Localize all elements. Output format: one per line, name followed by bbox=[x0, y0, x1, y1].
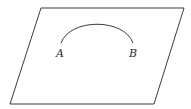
point-label-a: A bbox=[55, 47, 64, 60]
arc-a-to-b bbox=[61, 24, 133, 43]
plane-diagram: A B bbox=[0, 0, 191, 109]
plane-parallelogram bbox=[10, 8, 184, 104]
point-label-b: B bbox=[128, 47, 137, 60]
